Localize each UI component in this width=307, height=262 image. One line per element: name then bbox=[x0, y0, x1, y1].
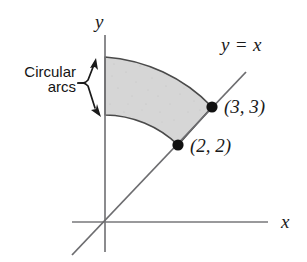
math-figure: y x y = x (3, 3) (2, 2) Circular arcs bbox=[0, 0, 307, 262]
y-axis-label: y bbox=[95, 12, 104, 31]
circular-arcs-annotation-line2: arcs bbox=[4, 79, 76, 94]
arrow-up-icon bbox=[90, 58, 98, 70]
point-dot-inner bbox=[172, 139, 183, 150]
line-label-y-equals-x: y = x bbox=[221, 35, 262, 54]
point-label-inner: (2, 2) bbox=[190, 136, 231, 155]
point-label-outer: (3, 3) bbox=[224, 97, 265, 116]
annotation-brace-lower bbox=[78, 83, 95, 108]
circular-arcs-annotation: Circular arcs bbox=[4, 64, 76, 95]
point-dot-outer bbox=[206, 101, 217, 112]
shaded-region bbox=[105, 57, 212, 145]
arrow-down-icon bbox=[91, 104, 101, 117]
x-axis-label: x bbox=[281, 212, 290, 231]
circular-arcs-annotation-line1: Circular bbox=[4, 64, 76, 79]
